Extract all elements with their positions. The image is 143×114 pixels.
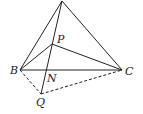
label-c: C: [125, 65, 134, 78]
label-n: N: [46, 72, 57, 85]
label-p: P: [56, 33, 65, 46]
geometry-diagram: B C P N Q: [0, 0, 143, 114]
segment-ab: [20, 1, 62, 70]
label-b: B: [9, 64, 18, 77]
segment-ac: [62, 1, 122, 70]
segment-bq-dashed: [20, 70, 41, 94]
segment-pc: [52, 44, 122, 70]
label-q: Q: [36, 96, 45, 109]
